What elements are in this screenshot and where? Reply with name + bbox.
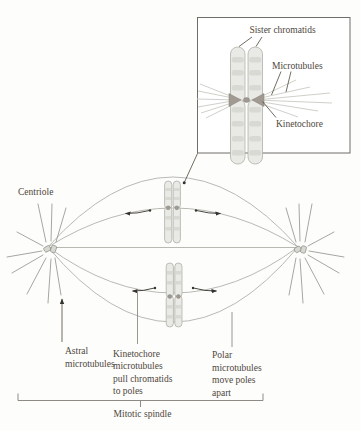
centriole-label: Centriole (18, 187, 53, 197)
kinetochore-bottom-right (177, 295, 181, 299)
centriole-right (294, 245, 307, 253)
kinetochore-microtubules-label: Kinetochore microtubules pull chromatids… (113, 349, 173, 397)
inset-border-box (198, 18, 351, 154)
polar-microtubules-label: Polar microtubules move poles apart (212, 350, 262, 398)
polar-label-line4: apart (212, 388, 231, 398)
kinetochore-top-right (175, 206, 179, 210)
chromosome-bottom (166, 263, 182, 327)
kinetochore-label-line3: pull chromatids (113, 374, 173, 384)
kinetochore-top-left (166, 206, 170, 210)
polar-label-line2: microtubules (212, 363, 262, 373)
astral-label-line2: microtubules (65, 359, 115, 369)
mitotic-spindle-label: Mitotic spindle (114, 409, 172, 419)
chromosome-top (165, 181, 181, 243)
kinetochore-label-line4: to poles (113, 386, 143, 396)
mitotic-spindle-figure: Centriole Astral microtubules Kinetochor… (0, 0, 361, 431)
sister-chromatids-label: Sister chromatids (249, 25, 316, 35)
kinetochore-bottom-left (168, 295, 172, 299)
kinetochore-label-line2: microtubules (113, 361, 163, 371)
astral-label-line1: Astral (65, 346, 89, 356)
polar-label-line3: move poles (212, 375, 256, 385)
kinetochore-label-line1: Kinetochore (113, 349, 160, 359)
microtubules-label: Microtubules (272, 61, 323, 71)
kinetochore-label: Kinetochore (276, 119, 323, 129)
astral-rays-right (286, 204, 344, 303)
inset-panel: Sister chromatids Microtubules Kinetocho… (197, 18, 350, 165)
astral-microtubules-label: Astral microtubules (65, 346, 115, 369)
polar-label-line1: Polar (212, 350, 233, 360)
diagram-svg: Centriole Astral microtubules Kinetochor… (0, 0, 361, 431)
